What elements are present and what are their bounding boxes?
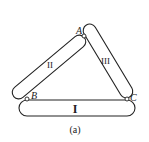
bar-label-iii: III (101, 56, 110, 66)
joint-c (125, 97, 129, 101)
point-label-a: A (75, 25, 83, 36)
figure-caption: (a) (69, 124, 80, 136)
point-label-c: C (130, 92, 137, 103)
joint-b (25, 97, 29, 101)
bar-label-i: I (73, 102, 78, 116)
truss-diagram: A B C II III I (a) (0, 0, 149, 142)
bar-label-ii: II (47, 60, 53, 70)
point-label-b: B (31, 90, 37, 101)
joint-a (82, 34, 86, 38)
